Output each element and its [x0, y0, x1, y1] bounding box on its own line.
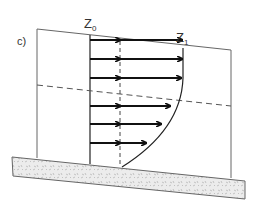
- velocity-profile-diagram: c) Z0 Z1: [0, 0, 253, 201]
- z0-subscript: 0: [92, 24, 96, 33]
- outer-frame: [37, 29, 231, 178]
- z1-base: Z: [176, 30, 184, 45]
- z0-label: Z0: [84, 16, 96, 33]
- z1-label: Z1: [176, 30, 188, 47]
- panel-label: c): [17, 35, 26, 47]
- z1-subscript: 1: [184, 38, 188, 47]
- diagram-canvas: [0, 0, 253, 201]
- z0-base: Z: [84, 16, 92, 31]
- velocity-arrows: [90, 40, 182, 143]
- velocity-profile-curve: [122, 48, 183, 167]
- dashed-horizontal-line: [37, 85, 231, 106]
